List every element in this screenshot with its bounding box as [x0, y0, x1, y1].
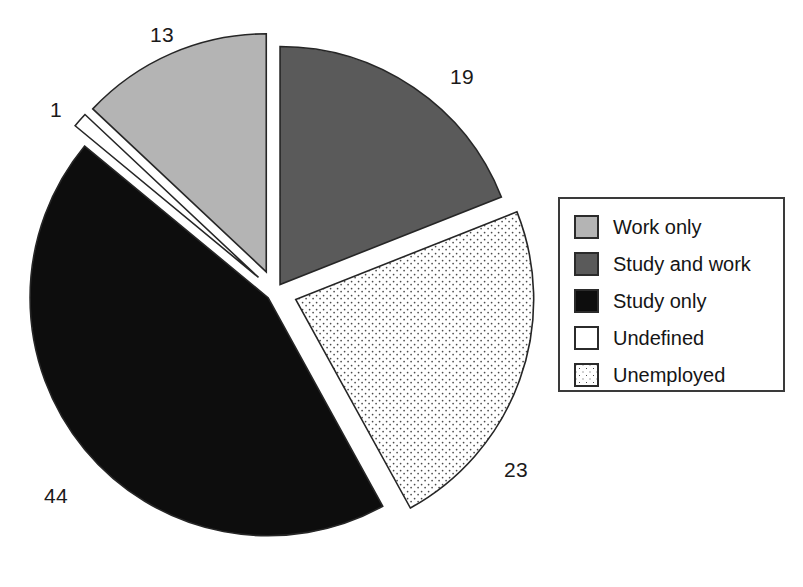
legend-item-study-and-work[interactable]: Study and work [574, 246, 775, 281]
legend-item-study-only[interactable]: Study only [574, 283, 775, 318]
slice-value-label-work-only: 13 [150, 24, 174, 45]
legend-item-work-only[interactable]: Work only [574, 209, 775, 244]
slice-value-label-undefined: 1 [50, 99, 62, 120]
legend-swatch-icon [574, 252, 599, 276]
legend-item-label: Study and work [613, 254, 751, 274]
legend-item-label: Undefined [613, 328, 704, 348]
chart-legend: Work onlyStudy and workStudy onlyUndefin… [558, 197, 785, 392]
legend-swatch-icon [574, 363, 599, 387]
legend-swatch-icon [574, 215, 599, 239]
slice-value-label-study-and-work: 19 [450, 66, 474, 87]
legend-item-unemployed[interactable]: Unemployed [574, 357, 775, 392]
legend-swatch-icon [574, 289, 599, 313]
legend-item-label: Unemployed [613, 365, 725, 385]
slice-value-label-study-only: 44 [44, 485, 68, 506]
legend-item-label: Study only [613, 291, 706, 311]
slice-value-label-unemployed: 23 [504, 459, 528, 480]
legend-rows: Work onlyStudy and workStudy onlyUndefin… [574, 209, 775, 394]
legend-item-label: Work only [613, 217, 702, 237]
legend-swatch-icon [574, 326, 599, 350]
pie-slices [30, 34, 534, 536]
legend-item-undefined[interactable]: Undefined [574, 320, 775, 355]
